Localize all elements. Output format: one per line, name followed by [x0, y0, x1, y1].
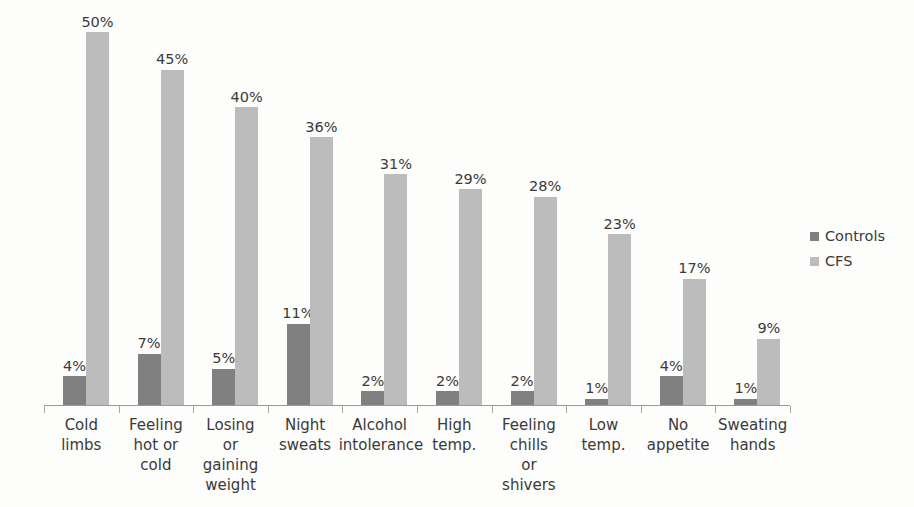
category-label-line: weight: [190, 476, 272, 496]
bar-chart: 4%50%7%45%5%40%11%36%2%31%2%29%2%28%1%23…: [0, 0, 914, 507]
legend-item-label: Controls: [825, 228, 885, 244]
x-axis-category-label: Feelinghot orcold: [115, 416, 197, 476]
bar-cfs[interactable]: 40%: [235, 107, 258, 406]
bar-cfs[interactable]: 29%: [459, 189, 482, 406]
category-label-line: chills: [488, 436, 570, 456]
x-axis-category-label: Hightemp.: [413, 416, 495, 456]
bar-value-label: 2%: [436, 374, 459, 389]
legend-swatch-icon: [810, 232, 819, 241]
bar-cfs[interactable]: 36%: [310, 137, 333, 406]
bar-value-label: 9%: [757, 321, 780, 336]
bar-value-label: 4%: [63, 359, 86, 374]
x-axis-category-label: Noappetite: [637, 416, 719, 456]
x-axis-category-label: Lowtemp.: [563, 416, 645, 456]
plot-area: 4%50%7%45%5%40%11%36%2%31%2%29%2%28%1%23…: [44, 10, 790, 406]
bar-value-label: 50%: [81, 15, 113, 30]
legend-item-cfs[interactable]: CFS: [810, 253, 910, 269]
bar-group: 5%40%: [193, 10, 268, 406]
bar-value-label: 45%: [156, 52, 188, 67]
category-label-line: or: [488, 456, 570, 476]
x-axis-tick: [566, 406, 567, 413]
bar-controls[interactable]: 4%: [63, 376, 86, 406]
bar-cfs[interactable]: 17%: [683, 279, 706, 406]
category-label-line: limbs: [40, 436, 122, 456]
category-label-line: Feeling: [115, 416, 197, 436]
bar-value-label: 7%: [138, 336, 161, 351]
category-label-line: hands: [712, 436, 794, 456]
bar-group: 4%17%: [641, 10, 716, 406]
bar-controls[interactable]: 7%: [138, 354, 161, 406]
bar-value-label: 2%: [361, 374, 384, 389]
legend-swatch-icon: [810, 257, 819, 266]
bar-value-label: 1%: [734, 381, 757, 396]
category-label-line: High: [413, 416, 495, 436]
bar-controls[interactable]: 2%: [436, 391, 459, 406]
category-label-line: temp.: [563, 436, 645, 456]
category-label-line: appetite: [637, 436, 719, 456]
bar-group: 1%23%: [566, 10, 641, 406]
category-label-line: sweats: [264, 436, 346, 456]
bar-value-label: 2%: [511, 374, 534, 389]
bar-group: 7%45%: [119, 10, 194, 406]
chart-legend: ControlsCFS: [810, 228, 910, 278]
bar-group: 1%9%: [715, 10, 790, 406]
bar-controls[interactable]: 2%: [361, 391, 384, 406]
bar-cfs[interactable]: 50%: [86, 32, 109, 406]
bar-cfs[interactable]: 28%: [534, 197, 557, 406]
x-axis-category-label: Feelingchillsorshivers: [488, 416, 570, 496]
bar-group: 4%50%: [44, 10, 119, 406]
x-axis-tick: [715, 406, 716, 413]
x-axis-tick: [342, 406, 343, 413]
bar-controls[interactable]: 4%: [660, 376, 683, 406]
x-axis-category-label: Nightsweats: [264, 416, 346, 456]
x-axis-tick: [417, 406, 418, 413]
category-label-line: gaining: [190, 456, 272, 476]
x-axis-tick: [268, 406, 269, 413]
bar-controls[interactable]: 2%: [511, 391, 534, 406]
bar-value-label: 5%: [212, 351, 235, 366]
category-label-line: Feeling: [488, 416, 570, 436]
x-axis-tick: [44, 406, 45, 413]
bar-cfs[interactable]: 9%: [757, 339, 780, 406]
bar-cfs[interactable]: 31%: [384, 174, 407, 406]
bar-controls[interactable]: 5%: [212, 369, 235, 406]
bar-value-label: 29%: [454, 172, 486, 187]
category-label-line: Cold: [40, 416, 122, 436]
bar-value-label: 1%: [585, 381, 608, 396]
x-axis-tick: [193, 406, 194, 413]
x-axis-category-label: Coldlimbs: [40, 416, 122, 456]
bar-group: 11%36%: [268, 10, 343, 406]
x-axis-tick: [492, 406, 493, 413]
x-axis-category-label: Losingorgainingweight: [190, 416, 272, 496]
bar-value-label: 40%: [231, 90, 263, 105]
x-axis-category-label: Sweatinghands: [712, 416, 794, 456]
bar-value-label: 28%: [529, 179, 561, 194]
category-label-line: Alcohol: [339, 416, 421, 436]
bar-cfs[interactable]: 23%: [608, 234, 631, 406]
category-label-line: hot or: [115, 436, 197, 456]
bar-value-label: 4%: [660, 359, 683, 374]
category-label-line: intolerance: [339, 436, 421, 456]
bar-group: 2%28%: [492, 10, 567, 406]
x-axis-tick: [641, 406, 642, 413]
x-axis-tick: [119, 406, 120, 413]
bar-group: 2%29%: [417, 10, 492, 406]
category-label-line: or: [190, 436, 272, 456]
x-axis-category-label: Alcoholintolerance: [339, 416, 421, 456]
legend-item-label: CFS: [825, 253, 852, 269]
category-label-line: Low: [563, 416, 645, 436]
category-label-line: cold: [115, 456, 197, 476]
bar-group: 2%31%: [342, 10, 417, 406]
x-axis-tick: [790, 406, 791, 413]
category-label-line: Night: [264, 416, 346, 436]
bar-value-label: 23%: [604, 217, 636, 232]
bar-value-label: 17%: [678, 261, 710, 276]
bar-cfs[interactable]: 45%: [161, 70, 184, 406]
legend-item-controls[interactable]: Controls: [810, 228, 910, 244]
category-label-line: No: [637, 416, 719, 436]
bar-value-label: 31%: [380, 157, 412, 172]
bar-value-label: 36%: [305, 120, 337, 135]
bar-controls[interactable]: 11%: [287, 324, 310, 406]
category-label-line: temp.: [413, 436, 495, 456]
category-label-line: Losing: [190, 416, 272, 436]
